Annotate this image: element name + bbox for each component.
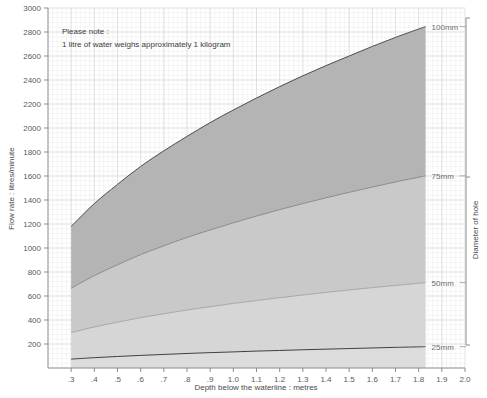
x-tick-label: 2.0 [459,375,471,384]
flow-rate-chart: 2004006008001000120014001600180020002200… [0,0,487,398]
y-tick-label: 2200 [23,100,41,109]
right-axis-title: Diameter of hole [471,200,480,259]
x-tick-label: 1.7 [390,375,402,384]
x-tick-label: .3 [68,375,75,384]
series-label-75mm: 75mm [432,172,455,181]
x-axis-title: Depth below the waterline : metres [194,383,317,392]
x-tick-label: .7 [160,375,167,384]
x-tick-label: 1.6 [367,375,379,384]
y-tick-label: 1600 [23,172,41,181]
chart-canvas: 2004006008001000120014001600180020002200… [0,0,487,398]
y-tick-label: 1000 [23,244,41,253]
y-tick-label: 3000 [23,4,41,13]
series-label-50mm: 50mm [432,279,455,288]
x-tick-label: .4 [91,375,98,384]
y-tick-label: 200 [28,340,42,349]
x-tick-label: .6 [137,375,144,384]
note-line-1: Please note : [62,27,109,36]
series-label-100mm: 100mm [432,23,459,32]
y-tick-label: 2400 [23,76,41,85]
series-label-25mm: 25mm [432,343,455,352]
y-tick-label: 1400 [23,196,41,205]
x-tick-label: 1.5 [344,375,356,384]
y-axis-title: Flow rate : litres/minute [7,147,16,230]
y-tick-label: 1800 [23,148,41,157]
x-tick-label: 1.8 [413,375,425,384]
y-tick-label: 2800 [23,28,41,37]
y-tick-label: 800 [28,268,42,277]
y-tick-label: 2600 [23,52,41,61]
x-tick-label: 1.9 [436,375,448,384]
x-tick-label: .8 [184,375,191,384]
y-tick-label: 2000 [23,124,41,133]
y-tick-label: 400 [28,316,42,325]
x-tick-label: .5 [114,375,121,384]
y-tick-label: 1200 [23,220,41,229]
y-tick-label: 600 [28,292,42,301]
note-line-2: 1 litre of water weighs approximately 1 … [62,40,231,49]
x-tick-label: 1.4 [320,375,332,384]
